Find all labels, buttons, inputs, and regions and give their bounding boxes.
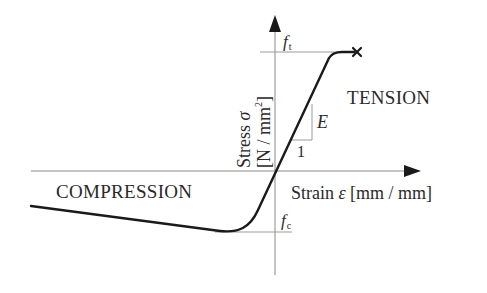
stress-strain-diagram: ft fc E 1 TENSION COMPRESSION Strain ε [… bbox=[0, 0, 487, 293]
fc-label: fc bbox=[281, 211, 292, 231]
ft-label: ft bbox=[283, 32, 292, 52]
slope-run-label: 1 bbox=[297, 143, 305, 160]
tension-label: TENSION bbox=[347, 87, 430, 108]
compression-label: COMPRESSION bbox=[56, 181, 192, 202]
stress-strain-curve bbox=[31, 52, 354, 231]
stress-axis-unit: [N / mm2] bbox=[253, 96, 274, 168]
strain-axis-label: Strain ε [mm / mm] bbox=[291, 183, 432, 203]
modulus-label: E bbox=[316, 112, 328, 132]
stress-axis-label: Stress σ bbox=[234, 110, 254, 168]
slope-triangle bbox=[292, 104, 312, 140]
strain-axis-arrow-icon bbox=[404, 165, 421, 177]
stress-axis-arrow-icon bbox=[269, 15, 281, 32]
